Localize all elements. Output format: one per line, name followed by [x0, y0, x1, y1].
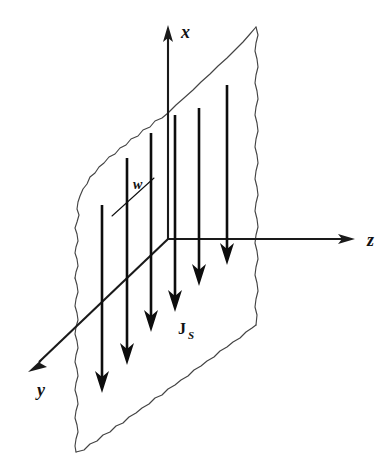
axis-y-line	[39, 239, 168, 362]
width-marker: w	[112, 177, 154, 216]
axis-x: x	[163, 22, 190, 239]
current-sheet-diagram: Infinite current sheet in the x-y plane …	[0, 0, 389, 471]
current-arrow-3	[144, 133, 158, 332]
axis-y-label: y	[35, 380, 46, 400]
current-arrow-4	[168, 115, 182, 312]
sheet-edge-left	[75, 278, 78, 452]
current-arrow-5	[192, 108, 206, 286]
current-arrow-1	[95, 205, 109, 393]
current-density-symbol: J	[178, 320, 186, 337]
current-density-subscript: S	[188, 329, 194, 341]
axis-z-label: z	[366, 230, 374, 250]
current-density-label: J S	[178, 320, 194, 341]
current-arrow-2	[120, 158, 134, 365]
axis-x-label: x	[180, 22, 190, 42]
figure-canvas: Infinite current sheet in the x-y plane …	[0, 0, 389, 471]
width-label: w	[133, 177, 143, 192]
sheet-edge-right	[255, 27, 258, 325]
